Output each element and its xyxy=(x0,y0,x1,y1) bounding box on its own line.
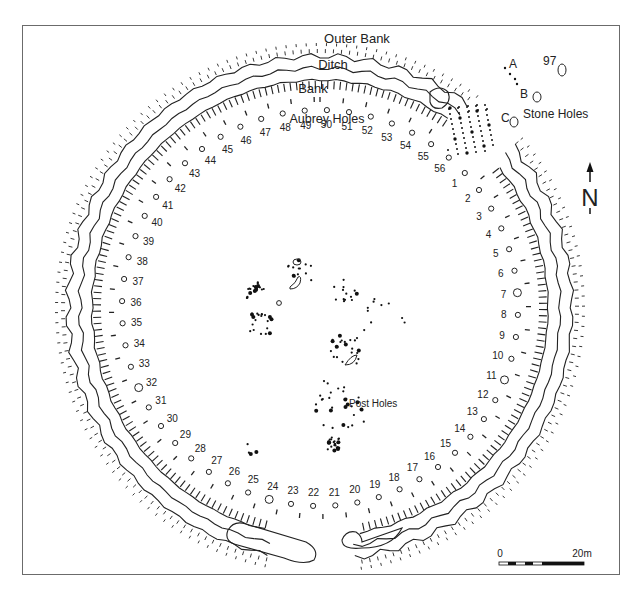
bank-hachure xyxy=(529,241,537,243)
post-hole xyxy=(331,436,333,438)
bank-hachure xyxy=(526,382,534,385)
bank-hachure xyxy=(502,431,509,435)
entrance-post-hole xyxy=(489,129,491,131)
post-hole xyxy=(256,313,258,315)
outer-bank-hachure xyxy=(226,553,227,556)
aubrey-hole-label: 55 xyxy=(418,151,430,162)
bank-hachure xyxy=(133,180,140,185)
post-hole xyxy=(388,302,390,304)
outer-bank-hachure xyxy=(63,372,66,373)
outer-bank-hachure xyxy=(550,196,554,198)
outer-bank-hachure xyxy=(141,121,144,124)
post-hole xyxy=(343,279,345,281)
post-hole xyxy=(332,427,334,429)
entrance-post-hole xyxy=(472,136,474,138)
outer-bank-hachure xyxy=(90,176,93,178)
outer-bank-hachure xyxy=(126,127,128,129)
bank-hachure xyxy=(175,477,180,483)
bank-hachure xyxy=(358,84,359,92)
post-hole xyxy=(341,423,345,427)
aubrey-hole-label: 1 xyxy=(452,178,458,189)
bank-hachure xyxy=(235,98,238,105)
entrance-post-hole xyxy=(468,110,470,112)
post-hole xyxy=(380,304,382,306)
bank-hachure xyxy=(117,207,124,211)
bank-hachure xyxy=(94,323,102,324)
aubrey-hole xyxy=(189,456,194,461)
outer-bank-hachure xyxy=(536,443,539,445)
bank-inner-tick xyxy=(152,180,156,183)
aubrey-hole-label: 8 xyxy=(501,309,507,320)
outer-bank-hachure xyxy=(381,563,382,566)
aubrey-hole-label: 20 xyxy=(349,484,361,495)
entrance-post-hole xyxy=(486,108,488,110)
bank-hachure xyxy=(375,520,377,528)
bank-hachure xyxy=(161,465,167,471)
entrance-post-hole xyxy=(460,122,462,124)
aubrey-hole-label: 39 xyxy=(143,236,155,247)
aubrey-hole-label: 12 xyxy=(477,389,489,400)
outer-bank-hachure xyxy=(76,410,79,411)
entrance-post-hole xyxy=(453,137,456,140)
outer-bank-hachure xyxy=(527,456,530,458)
outer-bank-hachure xyxy=(133,485,136,488)
post-hole xyxy=(345,293,347,295)
bank-inner-tick xyxy=(521,260,526,261)
bank-hachure xyxy=(175,133,180,139)
outer-bank-hachure xyxy=(129,133,132,136)
bank-inner-tick xyxy=(467,452,471,455)
aubrey-hole xyxy=(509,356,514,361)
outer-bank-hachure xyxy=(567,242,571,243)
post-hole xyxy=(323,424,325,426)
bank-hachure xyxy=(207,111,211,118)
aubrey-hole xyxy=(355,500,360,505)
outer-bank-hachure xyxy=(155,513,157,515)
bank-hachure xyxy=(259,89,261,97)
bank-hachure xyxy=(364,86,366,94)
bank-hachure xyxy=(247,515,250,523)
bank-outer-edge xyxy=(91,79,448,528)
bank-hachure xyxy=(265,88,267,96)
stone-hole-dot xyxy=(514,78,516,80)
outer-bank-hachure xyxy=(458,522,460,525)
outer-bank-hachure xyxy=(147,116,150,119)
outer-bank-hachure xyxy=(245,60,246,64)
aubrey-hole xyxy=(499,226,504,231)
outer-bank-hachure xyxy=(391,560,392,563)
post-hole xyxy=(333,286,335,288)
outer-bank-hachure xyxy=(266,49,267,52)
outer-bank-hachure xyxy=(87,419,91,421)
aubrey-hole xyxy=(429,142,434,147)
outer-bank-hachure xyxy=(560,414,563,415)
aubrey-hole xyxy=(446,155,451,160)
outer-bank-hachure xyxy=(153,110,156,113)
aubrey-hole-label: 29 xyxy=(180,429,192,440)
bank-hachure xyxy=(103,242,111,244)
outer-bank-hachure xyxy=(207,75,209,79)
outer-bank-hachure xyxy=(577,256,580,257)
aubrey-hole xyxy=(513,334,518,339)
label-stone-97: 97 xyxy=(543,54,557,68)
aubrey-hole-label: 10 xyxy=(492,350,504,361)
post-hole xyxy=(332,449,336,453)
outer-bank-hachure xyxy=(76,204,79,205)
bank-hachure xyxy=(491,445,497,450)
bank-inner-tick xyxy=(167,162,171,165)
aubrey-hole xyxy=(489,206,494,211)
bank-inner-tick xyxy=(366,102,367,107)
bank-hachure xyxy=(218,504,222,511)
label-aubrey-holes: Aubrey Holes xyxy=(289,112,364,126)
bank-hachure xyxy=(144,165,150,170)
outer-bank-hachure xyxy=(180,531,182,534)
post-hole xyxy=(349,339,351,341)
outer-bank-hachure xyxy=(96,179,100,181)
bank-hachure xyxy=(241,513,244,521)
bank-hachure xyxy=(241,95,244,103)
outer-bank-hachure xyxy=(114,151,117,153)
bank-hachure xyxy=(527,235,535,238)
outer-bank-hachure xyxy=(91,426,95,428)
post-hole xyxy=(330,392,332,394)
outer-bank-hachure xyxy=(404,63,405,67)
outer-bank-hachure xyxy=(539,162,542,164)
post-hole xyxy=(354,339,356,341)
